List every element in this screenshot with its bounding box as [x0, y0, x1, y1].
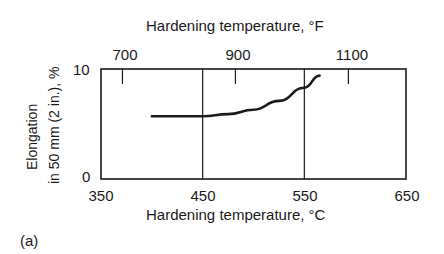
x-axis-title: Hardening temperature, °C: [146, 206, 325, 223]
panel-label: (a): [20, 232, 38, 249]
x2-axis-title: Hardening temperature, °F: [146, 17, 324, 34]
x2-tick-label: 900: [225, 46, 250, 63]
plot-frame: [101, 69, 406, 179]
x2-tick-label: 700: [112, 46, 137, 63]
x-tick-label: 650: [394, 187, 419, 204]
y-axis-title-line2: in 50 mm (2 in.), %: [46, 67, 62, 184]
x-tick-label: 450: [190, 187, 215, 204]
x2-tick-label: 1100: [336, 46, 368, 63]
y-tick-label: 10: [73, 61, 90, 78]
x-tick-label: 350: [88, 187, 113, 204]
y-tick-label: 0: [82, 168, 90, 185]
y-axis-title-line1: Elongation: [24, 104, 40, 170]
x-tick-label: 550: [292, 187, 317, 204]
